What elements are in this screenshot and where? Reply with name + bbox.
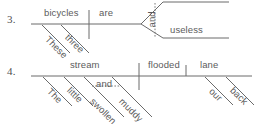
baseline-word-lane: lane (200, 59, 218, 70)
worksheet-page: 3. bicycles are useless and These three (0, 0, 262, 124)
baseline-word-stream: stream (70, 59, 100, 70)
exercise-number-4: 4. (7, 65, 16, 77)
baseline-word-flooded: flooded (148, 59, 180, 70)
sentence-diagram-4: 4. stream flooded lane and The little sw… (0, 0, 262, 124)
conjunction-word-and-4: and (96, 78, 112, 89)
